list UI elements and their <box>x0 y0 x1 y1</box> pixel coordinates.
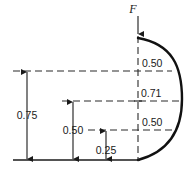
dimension-050-middle-label: 0.50 <box>63 124 84 136</box>
diagram-canvas: F 0.75 0.50 0.25 0.50 0.71 0.50 <box>0 0 192 173</box>
dimension-050-lower-label: 0.50 <box>142 116 163 128</box>
dimension-025-label: 0.25 <box>96 144 117 156</box>
force-label: F <box>128 2 137 16</box>
engineering-dimension-diagram: F 0.75 0.50 0.25 0.50 0.71 0.50 <box>0 0 192 173</box>
dimension-075-label: 0.75 <box>17 109 38 121</box>
dimension-071-label: 0.71 <box>141 87 162 99</box>
dimension-050-upper-label: 0.50 <box>142 57 163 69</box>
